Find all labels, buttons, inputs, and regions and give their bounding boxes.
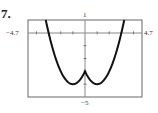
y-min-label: −5 [81, 99, 88, 107]
y-max-label: 1 [83, 11, 87, 19]
chart-plot [0, 0, 158, 113]
x-max-label: 4.7 [144, 29, 153, 37]
x-min-label: −4.7 [6, 29, 19, 37]
